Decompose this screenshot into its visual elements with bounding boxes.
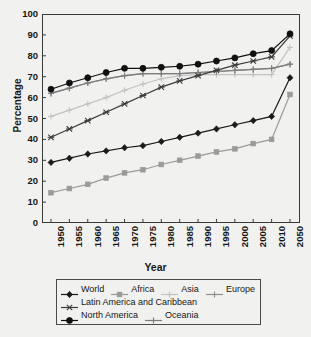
data-point-marker [122, 65, 128, 71]
data-point-marker [103, 70, 109, 76]
data-point-marker [140, 65, 146, 71]
series-latin-america-and-caribbean [48, 33, 294, 140]
y-tick-label: 60 [16, 93, 38, 103]
data-point-marker [67, 186, 72, 191]
x-axis-tick-labels: 1950195519601965197019751980198519901995… [42, 226, 300, 266]
data-point-marker [158, 138, 164, 144]
data-point-marker [158, 71, 164, 77]
legend-row: WorldAfricaAsiaEurope [61, 283, 256, 296]
data-point-marker [159, 162, 164, 167]
data-point-marker [269, 137, 274, 142]
data-point-marker [103, 148, 109, 154]
x-tick-label: 1995 [220, 226, 231, 266]
data-point-marker [214, 150, 219, 155]
square-marker-icon [111, 285, 128, 294]
data-point-marker [66, 107, 72, 113]
data-point-marker [151, 318, 157, 324]
data-point-marker [232, 63, 239, 68]
data-point-marker [84, 118, 91, 123]
legend-entry[interactable]: Africa [111, 285, 154, 294]
data-point-marker [177, 134, 183, 140]
data-point-marker [232, 55, 238, 61]
y-tick-label: 40 [16, 134, 38, 144]
plus-marker-icon [206, 285, 223, 294]
y-tick-label: 70 [16, 72, 38, 82]
data-point-marker [140, 81, 146, 87]
plus-marker-icon [145, 311, 162, 320]
data-point-marker [268, 54, 275, 59]
data-point-marker [213, 126, 219, 132]
x-tick-label: 1990 [202, 226, 213, 266]
data-point-marker [269, 113, 275, 119]
data-point-marker [287, 75, 293, 81]
legend-entry[interactable]: North America [61, 311, 138, 320]
data-point-marker [250, 66, 256, 72]
y-tick-label: 80 [16, 51, 38, 61]
data-point-marker [122, 73, 128, 79]
data-point-marker [232, 122, 238, 128]
data-point-marker [104, 176, 109, 181]
data-point-marker [103, 76, 109, 82]
data-point-marker [122, 145, 128, 151]
data-point-marker [48, 86, 54, 92]
series-line [51, 47, 290, 116]
data-point-marker [122, 87, 128, 93]
data-point-marker [48, 159, 54, 165]
data-point-marker [140, 93, 147, 98]
legend-row: Latin America and Caribbean [61, 296, 256, 309]
y-axis-tick-labels: 0102030405060708090100 [12, 0, 38, 337]
plus-marker-icon [161, 285, 178, 294]
x-tick-label: 1960 [92, 226, 103, 266]
x-axis-title: Year [0, 261, 311, 273]
x-tick-label: 2005 [257, 226, 268, 266]
cross-marker-icon [61, 298, 78, 307]
chart-container: Percentage 0102030405060708090100 195019… [0, 0, 311, 337]
legend-entry[interactable]: Asia [161, 285, 199, 294]
legend-label: Asia [181, 285, 199, 294]
circle-marker-icon [61, 311, 78, 320]
data-point-marker [66, 155, 72, 161]
data-point-marker [232, 67, 238, 73]
data-point-marker [250, 117, 256, 123]
data-point-marker [251, 141, 256, 146]
chart-legend: WorldAfricaAsiaEuropeLatin America and C… [56, 279, 261, 325]
data-point-marker [141, 167, 146, 172]
data-point-marker [158, 76, 164, 82]
legend-entry[interactable]: Oceania [145, 311, 199, 320]
legend-label: Europe [226, 285, 255, 294]
x-tick-label: 2050 [294, 226, 305, 266]
x-tick-label: 1980 [165, 226, 176, 266]
legend-entry[interactable]: World [61, 285, 104, 294]
data-point-marker [287, 61, 293, 67]
data-point-marker [250, 58, 257, 63]
legend-entry[interactable]: Europe [206, 285, 255, 294]
data-point-marker [103, 110, 110, 115]
data-point-marker [288, 92, 293, 97]
data-point-marker [177, 158, 182, 163]
x-tick-label: 1955 [73, 226, 84, 266]
data-point-marker [121, 101, 128, 106]
data-point-marker [140, 142, 146, 148]
legend-label: Africa [131, 285, 154, 294]
data-point-marker [195, 61, 201, 67]
data-point-marker [103, 95, 109, 101]
data-point-marker [85, 101, 91, 107]
legend-label: Latin America and Caribbean [81, 298, 197, 307]
legend-label: World [81, 285, 104, 294]
data-point-marker [269, 48, 275, 54]
y-tick-label: 20 [16, 176, 38, 186]
data-point-marker [67, 318, 73, 324]
x-tick-label: 1965 [110, 226, 121, 266]
x-tick-label: 1970 [129, 226, 140, 266]
y-tick-label: 100 [16, 9, 38, 19]
data-point-marker [196, 154, 201, 159]
data-point-marker [176, 78, 183, 83]
data-point-marker [177, 63, 183, 69]
y-tick-label: 50 [16, 114, 38, 124]
legend-label: Oceania [165, 311, 199, 320]
series-world [48, 75, 293, 166]
data-point-marker [158, 84, 165, 89]
data-point-marker [85, 75, 91, 81]
data-point-marker [250, 51, 256, 57]
legend-entry[interactable]: Latin America and Caribbean [61, 298, 197, 307]
